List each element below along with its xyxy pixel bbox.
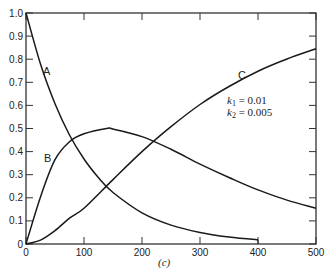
y-tick-label: 0.6 <box>9 100 23 111</box>
plot-border <box>26 13 316 244</box>
x-axis-tick-labels: 0100200300400500 <box>23 247 325 258</box>
curve-a <box>26 13 258 240</box>
curve-c <box>26 49 316 244</box>
curve-b <box>26 128 316 244</box>
x-tick-label: 100 <box>76 247 93 258</box>
y-tick-label: 0.1 <box>9 215 23 226</box>
y-tick-label: 0.8 <box>9 54 23 65</box>
y-tick-label: 0.3 <box>9 169 23 180</box>
y-tick-label: 1.0 <box>9 8 23 19</box>
plot-frame <box>26 13 316 244</box>
y-tick-label: 0.7 <box>9 77 23 88</box>
y-tick-label: 0.5 <box>9 123 23 134</box>
curve-a-label: A <box>43 65 51 77</box>
x-tick-label: 400 <box>250 247 267 258</box>
data-curves <box>26 13 316 244</box>
y-axis-tick-labels: 00.10.20.30.40.50.60.70.80.91.0 <box>9 8 23 250</box>
x-tick-label: 200 <box>134 247 151 258</box>
k2-annotation: k2 = 0.005 <box>227 106 273 120</box>
curve-c-label: C <box>238 69 246 81</box>
y-tick-label: 0.9 <box>9 31 23 42</box>
axis-ticks <box>26 13 316 244</box>
x-tick-label: 500 <box>308 247 325 258</box>
curve-b-label: B <box>44 152 51 164</box>
figure-caption: (c) <box>158 256 171 269</box>
concentration-time-chart: 00.10.20.30.40.50.60.70.80.91.0 01002003… <box>0 0 331 275</box>
y-tick-label: 0.4 <box>9 146 23 157</box>
x-tick-label: 300 <box>192 247 209 258</box>
y-tick-label: 0.2 <box>9 192 23 203</box>
x-tick-label: 0 <box>23 247 29 258</box>
